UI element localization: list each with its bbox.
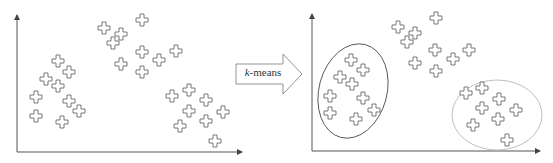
plus-marker-icon [492,113,504,125]
plus-marker-icon [52,55,64,67]
plus-marker-icon [63,95,75,107]
plus-marker-icon [166,90,178,102]
means-text: -means [250,66,282,78]
plus-marker-icon [217,106,229,118]
plus-marker-icon [200,94,212,106]
plus-marker-icon [183,84,195,96]
cluster-left-ellipse [308,36,399,146]
plus-marker-icon [460,87,472,99]
plus-marker-icon [30,110,42,122]
plus-marker-icon [467,119,479,131]
plus-marker-icon [357,92,369,104]
plus-marker-icon [136,66,148,78]
left-plot-points [30,14,229,147]
plus-marker-icon [40,73,52,85]
plus-marker-icon [357,64,369,76]
plus-marker-icon [476,82,488,94]
plus-marker-icon [350,113,362,125]
plus-marker-icon [409,27,421,39]
plus-marker-icon [392,21,404,33]
plus-marker-icon [493,93,505,105]
plus-marker-icon [63,66,75,78]
plus-marker-icon [115,58,127,70]
plus-marker-icon [30,91,42,103]
plus-marker-icon [209,135,221,147]
kmeans-label: k-means [238,66,288,78]
plus-marker-icon [429,44,441,56]
plus-marker-icon [345,54,357,66]
kmeans-diagram: k-means [0,0,553,163]
plus-marker-icon [107,37,119,49]
plus-marker-icon [409,57,421,69]
plus-marker-icon [324,107,336,119]
plus-marker-icon [52,80,64,92]
diagram-canvas [0,0,553,163]
plus-marker-icon [170,45,182,57]
plus-marker-icon [73,105,85,117]
plus-marker-icon [501,134,513,146]
plus-marker-icon [98,22,110,34]
plus-marker-icon [153,54,165,66]
plus-marker-icon [430,65,442,77]
plus-marker-icon [463,44,475,56]
plus-marker-icon [430,12,442,24]
cluster-ellipses [308,36,542,150]
right-plot-points [324,12,522,146]
plus-marker-icon [115,28,127,40]
plus-marker-icon [200,115,212,127]
plus-marker-icon [476,102,488,114]
plus-marker-icon [324,90,336,102]
plus-marker-icon [183,105,195,117]
plus-marker-icon [56,116,68,128]
plus-marker-icon [346,78,358,90]
plus-marker-icon [447,53,459,65]
plus-marker-icon [136,46,148,58]
plus-marker-icon [136,14,148,26]
plus-marker-icon [368,104,380,116]
plus-marker-icon [401,36,413,48]
plus-marker-icon [174,120,186,132]
plus-marker-icon [510,104,522,116]
plus-marker-icon [334,71,346,83]
left-plot-axes [17,15,242,152]
